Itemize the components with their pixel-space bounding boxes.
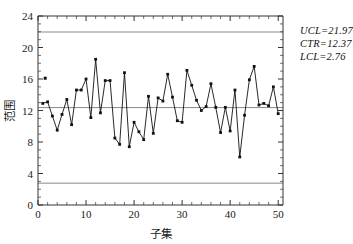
data-point-marker	[253, 65, 256, 68]
data-point-marker	[190, 84, 193, 87]
data-point-marker	[258, 104, 261, 107]
x-tick-label: 20	[129, 208, 141, 220]
data-point-marker	[89, 116, 92, 119]
data-point-marker	[195, 99, 198, 102]
lcl-annotation: LCL=2.76	[300, 51, 346, 62]
data-point-marker	[267, 104, 270, 107]
data-point-marker	[243, 114, 246, 117]
data-point-marker	[123, 71, 126, 74]
data-point-marker	[200, 109, 203, 112]
data-point-marker	[152, 132, 155, 135]
y-tick-label: 0	[28, 199, 34, 211]
data-point-marker	[176, 119, 179, 122]
y-tick-label: 16	[22, 73, 34, 85]
data-point-marker	[214, 106, 217, 109]
data-point-marker	[238, 156, 241, 159]
data-point-marker	[113, 137, 116, 140]
outlier-point-marker	[44, 77, 47, 80]
data-point-marker	[128, 145, 131, 148]
data-point-marker	[205, 105, 208, 108]
y-tick-label: 20	[22, 42, 34, 54]
data-point-marker	[85, 78, 88, 81]
data-point-marker	[133, 121, 136, 124]
data-point-marker	[166, 73, 169, 76]
data-point-marker	[147, 95, 150, 98]
x-tick-label: 30	[177, 208, 189, 220]
data-point-marker	[137, 130, 140, 133]
data-point-marker	[94, 58, 97, 61]
data-point-marker	[41, 102, 44, 105]
data-point-marker	[181, 121, 184, 124]
x-tick-label: 10	[81, 208, 93, 220]
data-point-marker	[61, 113, 64, 116]
data-line	[43, 59, 278, 157]
data-point-marker	[46, 100, 49, 103]
data-point-marker	[162, 100, 165, 103]
data-point-marker	[262, 102, 265, 105]
data-point-marker	[234, 89, 237, 92]
x-tick-label: 40	[225, 208, 237, 220]
y-tick-label: 8	[28, 136, 34, 148]
data-point-marker	[219, 131, 222, 134]
data-point-marker	[70, 123, 73, 126]
data-point-marker	[118, 143, 121, 146]
data-point-marker	[56, 129, 59, 132]
data-point-marker	[224, 106, 227, 109]
data-point-marker	[75, 89, 78, 92]
data-point-marker	[171, 96, 174, 99]
data-point-marker	[229, 130, 232, 133]
y-axis-title: 范围	[3, 100, 16, 122]
y-tick-label: 12	[22, 105, 33, 117]
data-point-marker	[109, 79, 112, 82]
data-point-marker	[157, 97, 160, 100]
ctr-annotation: CTR=12.37	[300, 38, 352, 49]
x-axis-title: 子集	[150, 227, 173, 240]
y-tick-label: 4	[28, 168, 34, 180]
ucl-annotation: UCL=21.97	[300, 25, 353, 36]
y-tick-label: 24	[22, 10, 34, 22]
data-point-marker	[80, 89, 83, 92]
data-point-marker	[51, 115, 54, 118]
data-point-marker	[99, 111, 102, 114]
data-point-marker	[186, 69, 189, 72]
data-point-marker	[248, 78, 251, 81]
x-tick-label: 0	[35, 208, 41, 220]
data-point-marker	[65, 98, 68, 101]
data-point-marker	[210, 82, 213, 85]
data-point-marker	[277, 112, 280, 115]
data-point-marker	[104, 79, 107, 82]
data-point-marker	[272, 85, 275, 88]
x-tick-label: 50	[273, 208, 285, 220]
data-point-marker	[142, 138, 145, 141]
